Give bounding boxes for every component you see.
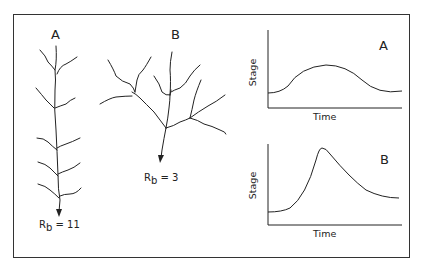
bifurcation-ratio-a: Rb = 11 bbox=[39, 219, 80, 233]
hydrograph-b-label: B bbox=[380, 152, 389, 167]
hydrograph-a-label: A bbox=[379, 38, 388, 53]
hydrograph-b-xlabel: Time bbox=[313, 228, 336, 239]
network-b-label: B bbox=[171, 27, 180, 42]
drainage-network-a bbox=[36, 46, 81, 212]
drainage-network-b bbox=[100, 52, 226, 158]
hydrograph-b-ylabel: Stage bbox=[247, 172, 258, 199]
hydrograph-a-curve bbox=[268, 65, 402, 93]
network-a-label: A bbox=[51, 27, 60, 42]
bifurcation-ratio-b: Rb = 3 bbox=[144, 172, 178, 186]
hydrograph-a-ylabel: Stage bbox=[247, 59, 258, 86]
outlet-arrow-b bbox=[158, 155, 164, 163]
hydrograph-a-xlabel: Time bbox=[313, 111, 336, 122]
outlet-arrow-a bbox=[56, 209, 62, 217]
